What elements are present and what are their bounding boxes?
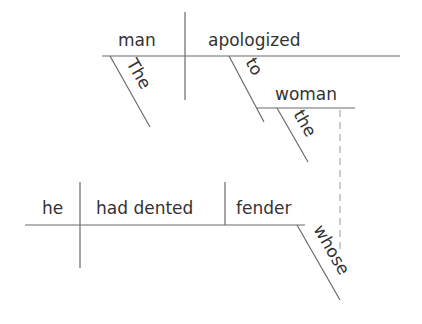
word-had-dented: had dented [96,198,193,218]
word-man: man [118,30,156,50]
word-woman: woman [275,84,337,104]
word-fender: fender [236,198,291,218]
word-the: the [290,106,321,140]
sentence-diagram: man apologized The to woman the he had d… [0,0,422,324]
word-apologized: apologized [208,30,300,50]
word-to: to [242,54,268,79]
word-whose: whose [310,221,355,278]
word-he: he [42,198,63,218]
